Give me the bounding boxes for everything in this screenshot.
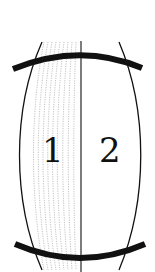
barrel-diagram: 1 2 <box>0 0 155 272</box>
region-2-label: 2 <box>99 130 121 170</box>
region-1-label: 1 <box>42 130 64 170</box>
right-boundary-curve <box>119 42 141 270</box>
bottom-arc <box>15 244 145 258</box>
